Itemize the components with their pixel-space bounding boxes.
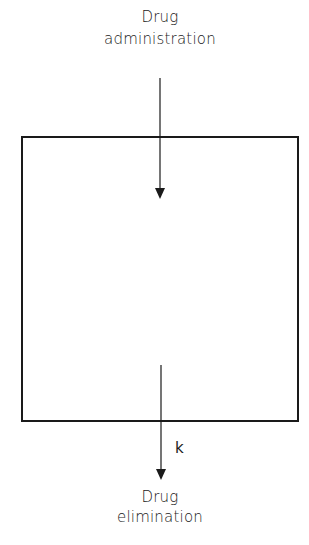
output-label-line2: elimination xyxy=(0,507,309,527)
compartment-diagram xyxy=(0,0,309,545)
elimination-arrow xyxy=(156,365,166,480)
administration-arrow xyxy=(155,78,165,199)
output-label-line1: Drug xyxy=(0,487,309,507)
rate-constant-label: k xyxy=(175,439,184,457)
